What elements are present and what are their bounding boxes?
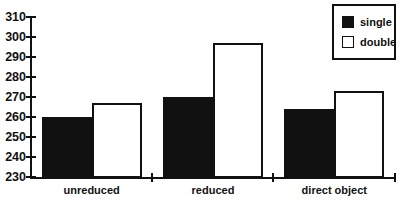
y-tick [26, 176, 36, 178]
y-tick-label: 290 [0, 50, 26, 64]
legend-swatch-double-icon [342, 36, 354, 48]
bar-unreduced-single [42, 117, 92, 178]
y-tick-label: 230 [0, 170, 26, 184]
y-tick-label: 240 [0, 150, 26, 164]
y-tick [26, 136, 36, 138]
legend-swatch-single-icon [342, 16, 354, 28]
y-tick-label: 270 [0, 90, 26, 104]
y-tick-label: 250 [0, 130, 26, 144]
legend-label-double: double [360, 36, 396, 48]
bar-chart: 230240250260270280290300310unreducedredu… [0, 0, 400, 205]
y-tick [26, 96, 36, 98]
y-tick [26, 116, 36, 118]
y-tick-label: 260 [0, 110, 26, 124]
y-tick [26, 36, 36, 38]
x-axis-tick [272, 173, 274, 182]
bar-reduced-single [163, 97, 213, 178]
x-axis-tick [151, 173, 153, 182]
bar-reduced-double [213, 43, 263, 178]
x-category-label: reduced [152, 184, 273, 196]
y-tick-label: 280 [0, 70, 26, 84]
y-tick [26, 76, 36, 78]
x-axis-tick [394, 173, 396, 182]
y-tick-label: 310 [0, 10, 26, 24]
x-category-label: direct object [274, 184, 395, 196]
legend: single double [332, 4, 396, 60]
legend-item-single: single [342, 16, 394, 28]
y-tick [26, 56, 36, 58]
y-tick-label: 300 [0, 30, 26, 44]
y-tick [26, 156, 36, 158]
x-category-label: unreduced [31, 184, 152, 196]
bar-direct-object-double [334, 91, 384, 178]
bar-direct-object-single [284, 109, 334, 178]
legend-label-single: single [360, 16, 392, 28]
legend-item-double: double [342, 36, 394, 48]
y-tick [26, 16, 36, 18]
bar-unreduced-double [92, 103, 142, 178]
